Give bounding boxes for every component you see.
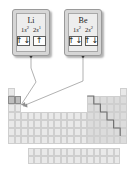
arrow-up-icon: ↑ <box>68 37 75 45</box>
li-subshell-2s: 2s1 <box>33 26 41 34</box>
callout-li: Li 1s2 2s1 ↑↓ ↑ <box>12 9 50 56</box>
callout-li-orbital-diagram: ↑↓ ↑ <box>17 36 46 46</box>
be-subshell-2s: 2s2 <box>85 26 93 34</box>
li-subshell-1s: 1s2 <box>21 26 29 34</box>
be-2s-arrows: ↑↓ <box>86 37 97 45</box>
li-leader-line <box>21 68 36 105</box>
be-subshell-1s: 1s2 <box>73 26 81 34</box>
callout-li-face: Li 1s2 2s1 ↑↓ ↑ <box>16 13 46 52</box>
be-1s-arrows: ↑↓ <box>70 37 81 45</box>
arrow-up-icon: ↑ <box>16 37 23 45</box>
be-leader-line <box>23 68 83 106</box>
be-orbital-box-1s: ↑↓ <box>69 36 82 46</box>
li-2s-arrows: ↑ <box>34 37 45 45</box>
arrow-down-icon: ↓ <box>76 37 83 45</box>
callout-be-symbol: Be <box>79 16 88 25</box>
be-orbital-box-2s: ↑↓ <box>85 36 98 46</box>
callout-li-symbol: Li <box>27 16 34 25</box>
arrow-up-icon: ↑ <box>36 37 43 45</box>
figure-root: Li 1s2 2s1 ↑↓ ↑ Be <box>0 0 137 194</box>
callout-li-configuration: 1s2 2s1 <box>21 26 41 34</box>
callout-be-orbital-diagram: ↑↓ ↑↓ <box>69 36 98 46</box>
li-orbital-box-1s: ↑↓ <box>17 36 30 46</box>
li-1s-arrows: ↑↓ <box>18 37 29 45</box>
callout-be-configuration: 1s2 2s2 <box>73 26 93 34</box>
callout-be: Be 1s2 2s2 ↑↓ ↑↓ <box>64 9 102 56</box>
arrow-up-icon: ↑ <box>84 37 91 45</box>
callout-be-face: Be 1s2 2s2 ↑↓ ↑↓ <box>68 13 98 52</box>
arrow-down-icon: ↓ <box>92 37 99 45</box>
li-orbital-box-2s: ↑ <box>33 36 46 46</box>
arrow-down-icon: ↓ <box>24 37 31 45</box>
